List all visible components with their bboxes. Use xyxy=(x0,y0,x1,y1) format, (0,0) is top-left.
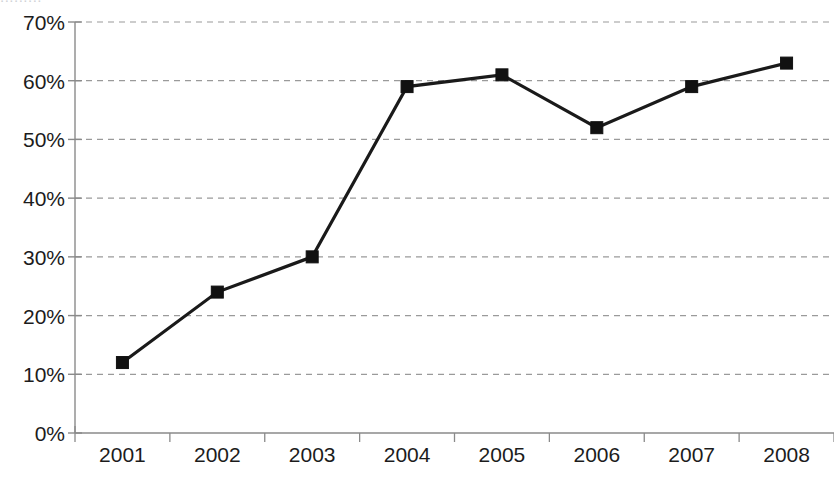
data-point-2001 xyxy=(116,357,128,369)
line-chart: ......... 0%10%20%30%40%50%60%70% 200120… xyxy=(0,0,834,480)
data-point-2002 xyxy=(211,286,223,298)
y-axis-label-50: 50% xyxy=(3,129,65,150)
data-line-group xyxy=(122,63,786,362)
x-axis-label-2008: 2008 xyxy=(732,443,834,467)
chart-canvas xyxy=(0,0,834,480)
y-axis-label-30: 30% xyxy=(3,246,65,267)
x-axis-label-2005: 2005 xyxy=(447,443,557,467)
y-axis-label-40: 40% xyxy=(3,188,65,209)
data-point-2003 xyxy=(306,251,318,263)
y-axis-label-20: 20% xyxy=(3,305,65,326)
data-point-2004 xyxy=(401,81,413,93)
data-point-2006 xyxy=(591,122,603,134)
data-point-2005 xyxy=(496,69,508,81)
data-markers-group xyxy=(116,57,792,368)
x-axis-label-2004: 2004 xyxy=(352,443,462,467)
y-axis-label-10: 10% xyxy=(3,364,65,385)
y-axis-label-70: 70% xyxy=(3,12,65,33)
data-point-2008 xyxy=(781,57,793,69)
x-tick-marks-group xyxy=(75,426,834,442)
data-point-2007 xyxy=(686,81,698,93)
x-axis-label-2001: 2001 xyxy=(67,443,177,467)
x-axis-label-2003: 2003 xyxy=(257,443,367,467)
x-axis-label-2002: 2002 xyxy=(162,443,272,467)
x-axis-label-2006: 2006 xyxy=(542,443,652,467)
y-axis-label-60: 60% xyxy=(3,70,65,91)
y-axis-label-0: 0% xyxy=(3,423,65,444)
axes-group xyxy=(75,22,834,433)
x-axis-label-2007: 2007 xyxy=(637,443,747,467)
series-line xyxy=(122,63,786,362)
gridlines-group xyxy=(75,22,834,374)
